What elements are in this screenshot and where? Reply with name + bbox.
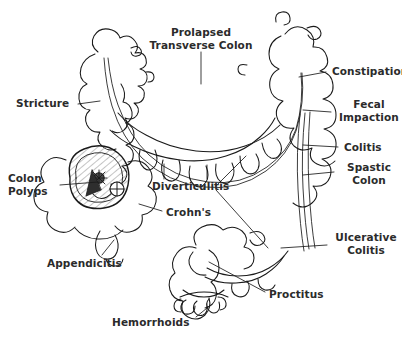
leader-stricture — [78, 101, 100, 104]
label-spastic-colon: Spastic Colon — [340, 161, 398, 186]
label-colitis: Colitis — [344, 141, 394, 154]
leader-fecal-impaction — [303, 110, 331, 112]
leader-constipation — [299, 72, 326, 77]
leader-proctitus — [209, 262, 265, 292]
label-colon-polyps: Colon Polyps — [8, 172, 56, 197]
leader-ulcerative-colitis — [281, 245, 327, 248]
label-stricture: Stricture — [16, 97, 74, 110]
label-proctitus: Proctitus — [269, 288, 327, 301]
leader-crohns — [139, 204, 162, 211]
label-prolapsed-transverse-colon: Prolapsed Transverse Colon — [143, 26, 259, 51]
colon-conditions-diagram: Prolapsed Transverse Colon Constipation … — [0, 0, 402, 338]
rectum — [169, 247, 224, 319]
hemorrhoid-cluster — [174, 292, 228, 316]
label-crohns: Crohn's — [166, 206, 220, 219]
colon-lumen-lines — [104, 58, 315, 251]
label-appendicitis: Appendicitis — [47, 257, 125, 270]
leader-spastic-colon — [303, 172, 334, 175]
sigmoid-colon — [189, 225, 288, 297]
label-constipation: Constipation — [332, 65, 402, 78]
label-hemorrhoids: Hemorrhoids — [112, 316, 194, 329]
label-fecal-impaction: Fecal Impaction — [337, 98, 401, 123]
diverticula-left — [131, 46, 154, 82]
leader-diverticulitis-d — [216, 190, 268, 248]
label-ulcerative-colitis: Ulcerative Colitis — [333, 231, 399, 256]
leader-appendicitis — [102, 240, 114, 255]
label-diverticulitis: Diverticulitis — [152, 180, 232, 193]
